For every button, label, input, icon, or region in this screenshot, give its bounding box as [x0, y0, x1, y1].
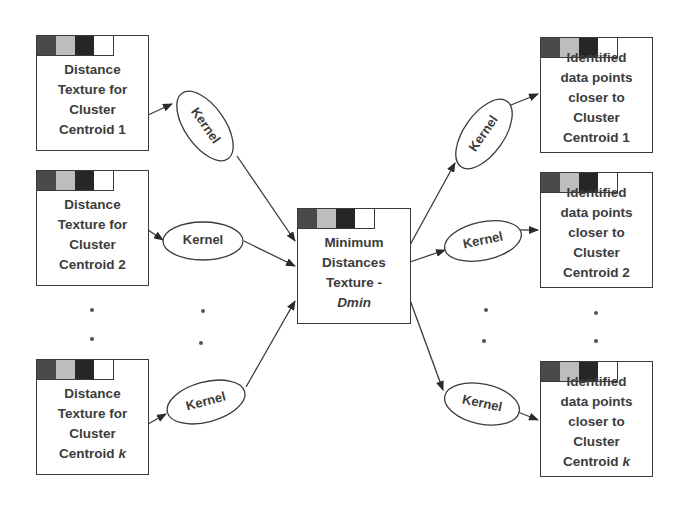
ellipsis-dot: [201, 309, 205, 313]
box-label: DistanceTexture forClusterCentroid 1: [37, 60, 148, 140]
ellipsis-dot: [199, 341, 203, 345]
ellipsis-dot: [594, 339, 598, 343]
distance-texture-box-k: DistanceTexture forClusterCentroid k: [36, 359, 149, 475]
ellipsis-dot: [90, 308, 94, 312]
texture-swatches: [298, 209, 375, 229]
texture-swatches: [37, 171, 114, 191]
texture-swatches: [37, 360, 114, 380]
kernel-label: Kernel: [183, 232, 223, 247]
box-label: DistanceTexture forClusterCentroid 2: [37, 195, 148, 275]
box-label: Identifieddata pointscloser toClusterCen…: [541, 48, 652, 148]
ellipsis-dot: [482, 339, 486, 343]
distance-texture-box-2: DistanceTexture forClusterCentroid 2: [36, 170, 149, 286]
box-label: MinimumDistancesTexture -Dmin: [298, 233, 410, 313]
box-label: Identifieddata pointscloser toClusterCen…: [541, 183, 652, 283]
box-label: DistanceTexture forClusterCentroid k: [37, 384, 148, 464]
distance-texture-box-1: DistanceTexture forClusterCentroid 1: [36, 35, 149, 151]
identified-points-box-2: Identifieddata pointscloser toClusterCen…: [540, 172, 653, 288]
ellipsis-dot: [90, 337, 94, 341]
ellipsis-dot: [594, 311, 598, 315]
identified-points-box-1: Identifieddata pointscloser toClusterCen…: [540, 37, 653, 153]
ellipsis-dot: [484, 308, 488, 312]
box-label: Identifieddata pointscloser toClusterCen…: [541, 372, 652, 472]
texture-swatches: [37, 36, 114, 56]
identified-points-box-k: Identifieddata pointscloser toClusterCen…: [540, 361, 653, 477]
minimum-distances-texture-box: MinimumDistancesTexture -Dmin: [297, 208, 411, 324]
